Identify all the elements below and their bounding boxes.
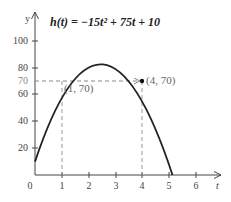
- parabola-chart: y t h(t) = −15t² + 75t + 10 0 1 2 3 4 5 …: [0, 0, 231, 202]
- svg-text:5: 5: [167, 180, 172, 191]
- svg-text:4: 4: [140, 180, 145, 191]
- annotation-1-70: (1, 70): [64, 82, 94, 95]
- svg-text:70: 70: [18, 75, 28, 86]
- x-axis-label: t: [216, 180, 219, 191]
- svg-text:6: 6: [194, 180, 199, 191]
- svg-text:3: 3: [114, 180, 119, 191]
- svg-text:1: 1: [60, 180, 65, 191]
- y-tick-labels: 20 40 60 70 80 100: [13, 35, 28, 153]
- svg-text:100: 100: [13, 35, 28, 46]
- svg-text:40: 40: [18, 115, 28, 126]
- x-tick-labels: 0 1 2 3 4 5 6: [28, 180, 199, 191]
- chart-title: h(t) = −15t² + 75t + 10: [50, 15, 160, 29]
- svg-text:0: 0: [28, 180, 33, 191]
- svg-text:2: 2: [87, 180, 92, 191]
- svg-text:60: 60: [18, 88, 28, 99]
- svg-text:20: 20: [18, 142, 28, 153]
- y-axis-label: y: [25, 13, 30, 24]
- svg-text:80: 80: [18, 62, 28, 73]
- point-4-70: [140, 79, 144, 83]
- annotation-4-70: (4, 70): [146, 74, 176, 87]
